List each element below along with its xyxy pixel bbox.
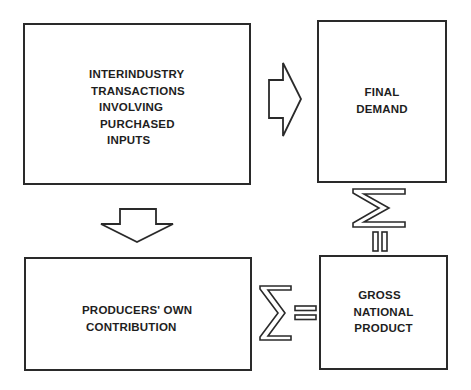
equals-sign-vertical-icon: [373, 232, 387, 251]
block-arrow-right-icon: [269, 63, 301, 136]
connectors-layer: [0, 0, 471, 390]
sigma-summation-icon: [353, 189, 405, 227]
equals-sign-horizontal-icon: [295, 306, 316, 320]
sigma-summation-icon: [260, 286, 291, 340]
block-arrow-down-icon: [101, 209, 173, 242]
